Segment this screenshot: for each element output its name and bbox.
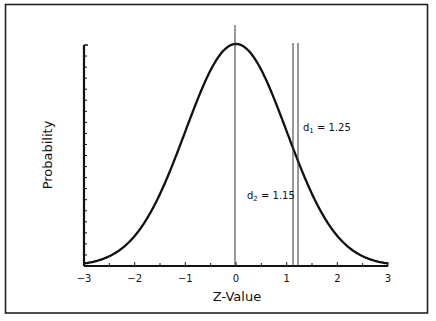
d1-annotation: d1 = 1.25	[303, 122, 351, 135]
x-tick-label: 0	[233, 273, 239, 284]
normal-density-path	[84, 44, 388, 264]
x-tick-label: 2	[334, 273, 340, 284]
density-curve	[84, 44, 388, 264]
x-tick-label: 1	[283, 273, 289, 284]
x-tick-label: −1	[178, 273, 193, 284]
normal-curve-chart: −3−2−10123 d1 = 1.25 d2 = 1.15 Z-Value P…	[0, 0, 436, 321]
reference-lines	[235, 25, 298, 266]
y-axis-label: Probability	[40, 120, 55, 189]
d2-annotation: d2 = 1.15	[247, 190, 295, 203]
chart-figure: −3−2−10123 d1 = 1.25 d2 = 1.15 Z-Value P…	[0, 0, 436, 321]
x-tick-label: −2	[127, 273, 142, 284]
x-tick-label: −3	[77, 273, 92, 284]
x-axis-label: Z-Value	[213, 289, 261, 304]
x-tick-label: 3	[385, 273, 391, 284]
